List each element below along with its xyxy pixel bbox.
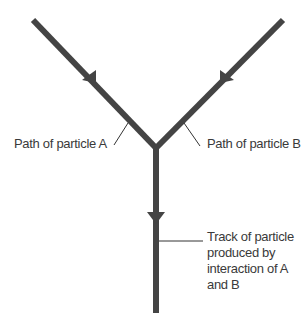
label-track-produced-particle: Track of particle produced by interactio…	[207, 229, 294, 293]
label-track-line-4: and B	[207, 277, 294, 293]
label-path-particle-a: Path of particle A	[14, 136, 107, 152]
label-path-particle-b: Path of particle B	[207, 136, 301, 152]
arrowhead-track-icon	[147, 212, 165, 224]
path-particle-b	[156, 20, 283, 148]
label-track-line-3: interaction of A	[207, 261, 294, 277]
label-track-line-1: Track of particle	[207, 229, 294, 245]
label-track-line-2: produced by	[207, 245, 294, 261]
leader-line-a	[114, 123, 128, 145]
leader-line-b	[184, 123, 200, 146]
path-particle-a	[33, 20, 156, 148]
